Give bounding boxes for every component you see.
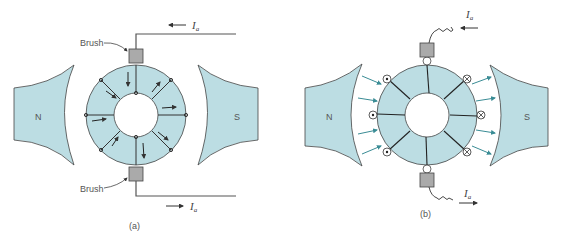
- south-pole-a: [198, 65, 258, 165]
- brush-top-b: [420, 43, 434, 57]
- current-label-top-b: Ia: [465, 8, 474, 22]
- coiled-lead-bottom-b: [429, 187, 453, 200]
- coiled-lead-top-b: [429, 27, 453, 43]
- pole-label-s-a: S: [234, 112, 240, 122]
- brush-bottom-b: [420, 173, 434, 187]
- pole-label-n-a: N: [35, 112, 42, 122]
- current-label-bottom-b: Ia: [463, 187, 472, 201]
- caption-b: (b): [420, 209, 431, 219]
- lead-bottom-a: [136, 181, 236, 196]
- pole-label-s-b: S: [524, 112, 530, 122]
- north-pole-a: [14, 65, 74, 165]
- brush-top-a: [129, 49, 143, 63]
- north-pole-b: [305, 64, 362, 166]
- armature-hole-b: [405, 93, 449, 137]
- commutator-bottom-b: [423, 165, 431, 173]
- current-label-bottom-a: Ia: [189, 200, 198, 214]
- panel-a: Ia Ia Brush Brush N S (a): [14, 19, 258, 231]
- caption-a: (a): [129, 221, 140, 231]
- current-label-top-a: Ia: [191, 19, 200, 33]
- pole-label-n-b: N: [326, 112, 333, 122]
- commutator-top-b: [423, 57, 431, 65]
- dc-machine-diagram: Ia Ia Brush Brush N S (a): [0, 0, 564, 236]
- brush-top-label-a: Brush: [80, 38, 104, 48]
- armature-hole-a: [114, 93, 158, 137]
- panel-b: Ia Ia N S (b): [305, 8, 548, 219]
- lead-top-a: [136, 34, 236, 49]
- brush-bottom-label-a: Brush: [80, 184, 104, 194]
- south-pole-b: [490, 65, 548, 166]
- brush-bottom-a: [129, 167, 143, 181]
